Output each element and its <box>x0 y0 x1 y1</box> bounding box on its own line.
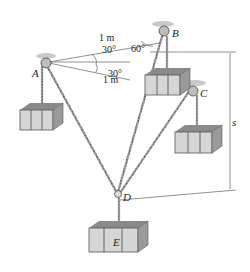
pulley-b <box>152 21 174 36</box>
dim-sag: s <box>232 116 236 128</box>
label-d: D <box>122 191 131 203</box>
crate-b <box>145 68 190 95</box>
dim-ab-length: 1 m <box>99 32 115 43</box>
label-b: B <box>172 27 179 39</box>
pulley-diagram: A B C D E 1 m 30° 30° 1 m 60° s <box>0 0 250 272</box>
label-e: E <box>112 236 120 248</box>
ring-d <box>115 191 122 198</box>
pulley-a <box>36 53 56 68</box>
label-c: C <box>200 87 208 99</box>
dim-angle-b: 60° <box>131 43 145 54</box>
crate-a <box>20 103 63 130</box>
dim-angle-upper: 30° <box>102 44 116 55</box>
dim-ac-length: 1 m <box>103 74 119 85</box>
crate-c <box>175 125 222 153</box>
label-a: A <box>31 67 39 79</box>
